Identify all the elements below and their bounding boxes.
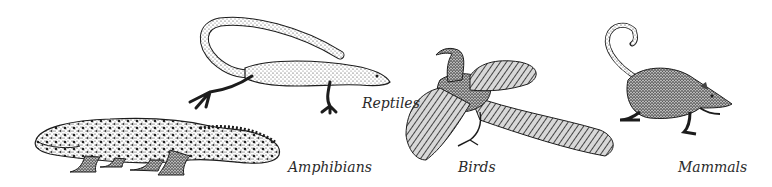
label-reptiles: Reptiles <box>362 96 420 110</box>
salamander-icon <box>35 118 279 175</box>
shrew-icon <box>607 25 732 134</box>
lizard-icon <box>190 21 390 113</box>
illustration-canvas <box>0 0 772 187</box>
vertebrate-classes-illustration: Amphibians Reptiles Birds Mammals <box>0 0 772 187</box>
label-mammals: Mammals <box>678 160 747 174</box>
label-birds: Birds <box>458 160 496 174</box>
label-amphibians: Amphibians <box>288 160 372 174</box>
archaeopteryx-icon <box>406 48 613 160</box>
